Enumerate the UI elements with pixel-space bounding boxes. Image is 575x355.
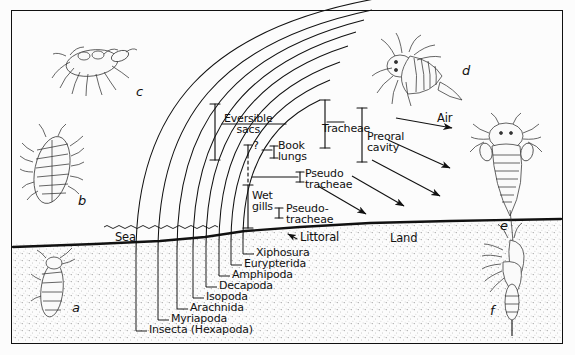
- label-sea: Sea: [115, 232, 136, 244]
- specimen-label-e: e: [500, 218, 508, 233]
- label-preoral-cavity: Preoral cavity: [367, 131, 404, 153]
- label-pseudotracheae-upper: Pseudo tracheae: [305, 168, 352, 190]
- specimen-a-drawing: [31, 248, 75, 318]
- specimen-label-b: b: [78, 193, 86, 208]
- specimen-label-a: a: [72, 300, 80, 315]
- label-tracheae: Tracheae: [322, 123, 370, 134]
- label-book-lungs: Book lungs: [278, 140, 307, 162]
- label-land: Land: [390, 233, 417, 245]
- specimen-c-drawing: [52, 47, 137, 96]
- label-wet-gills: Wet gills: [252, 190, 273, 212]
- taxon-label-insecta: Insecta (Hexapoda): [149, 324, 253, 335]
- label-question-mark: ?: [253, 140, 259, 151]
- specimen-illustrations: [0, 0, 575, 355]
- specimen-b-drawing: [20, 124, 84, 207]
- figure-canvas: Sea Littoral Land Air Eversible sacs ? B…: [0, 0, 575, 355]
- label-eversible-sacs: Eversible sacs: [224, 113, 273, 135]
- specimen-label-f: f: [490, 303, 495, 318]
- specimen-label-c: c: [136, 84, 143, 99]
- label-pseudotracheae-lower: Pseudo- tracheae: [286, 203, 333, 225]
- specimen-f-drawing: [482, 223, 524, 336]
- specimen-d-drawing: [372, 33, 462, 106]
- label-littoral: Littoral: [300, 232, 339, 244]
- specimen-label-d: d: [462, 63, 470, 78]
- label-air: Air: [437, 113, 452, 125]
